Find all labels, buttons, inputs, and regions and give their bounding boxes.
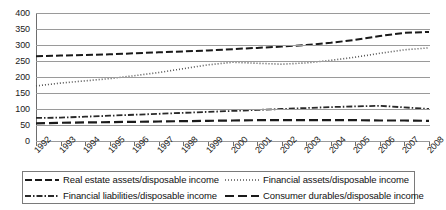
x-axis-tick-labels: 1992199319941995199619971998199920002001… <box>0 146 437 172</box>
legend-column-right: Financial assets/disposable incomeConsum… <box>225 172 415 203</box>
y-tick-label: 50 <box>0 121 30 130</box>
y-tick-label: 250 <box>0 57 30 66</box>
y-tick-label: 100 <box>0 105 30 114</box>
y-tick-label: 300 <box>0 41 30 50</box>
legend-item-label: Consumer durables/disposable income <box>263 191 424 201</box>
legend-item-label: Real estate assets/disposable income <box>63 175 219 185</box>
plot-area <box>36 13 430 141</box>
gridline <box>36 61 430 62</box>
legend-item-label: Financial liabilities/disposable income <box>63 191 217 201</box>
gridline <box>36 29 430 30</box>
gridline <box>36 13 430 14</box>
y-tick-label: 350 <box>0 25 30 34</box>
gridline <box>36 93 430 94</box>
y-tick-label: 400 <box>0 9 30 18</box>
gridline <box>36 45 430 46</box>
gridline <box>36 77 430 78</box>
legend-item[interactable]: Consumer durables/disposable income <box>225 188 424 204</box>
chart-legend: Real estate assets/disposable incomeFina… <box>22 171 415 204</box>
gridline <box>36 125 430 126</box>
legend-item[interactable]: Financial assets/disposable income <box>225 172 409 188</box>
legend-item-label: Financial assets/disposable income <box>263 175 409 185</box>
legend-item[interactable]: Financial liabilities/disposable income <box>25 188 217 204</box>
legend-item[interactable]: Real estate assets/disposable income <box>25 172 219 188</box>
legend-column-left: Real estate assets/disposable incomeFina… <box>25 172 223 203</box>
series-line-1 <box>36 48 429 86</box>
legend-swatch-icon <box>25 175 59 185</box>
plot-wrapper: 050100150200250300350400 199219931994199… <box>0 0 437 160</box>
y-tick-label: 0 <box>0 137 30 146</box>
legend-swatch-icon <box>225 191 259 201</box>
legend-swatch-icon <box>25 191 59 201</box>
y-axis-tick-labels: 050100150200250300350400 <box>0 0 30 160</box>
series-line-2 <box>36 106 429 118</box>
y-tick-label: 200 <box>0 73 30 82</box>
series-line-3 <box>36 120 429 123</box>
gridline <box>36 109 430 110</box>
legend-swatch-icon <box>225 175 259 185</box>
y-tick-label: 150 <box>0 89 30 98</box>
